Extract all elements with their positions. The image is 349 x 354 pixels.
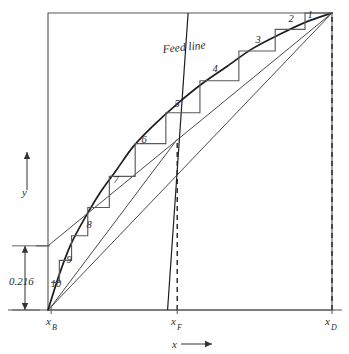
stage-number-10: 10 xyxy=(51,278,62,289)
stage-number-3: 3 xyxy=(254,34,260,45)
stage-number-8: 8 xyxy=(86,219,92,230)
x-axis-label: x xyxy=(171,338,177,350)
x-tick-label-xB-base: x xyxy=(45,315,51,327)
stage-number-5: 5 xyxy=(174,98,179,109)
stage-number-1: 1 xyxy=(307,9,312,20)
x-tick-label-xD-base: x xyxy=(324,315,330,327)
composition-verticals xyxy=(177,13,332,310)
mccabe-thiele-figure: Feed line 0.216 y x x B x F x D 12345678… xyxy=(0,0,349,354)
feed-line-label: Feed line xyxy=(161,39,206,56)
stage-number-9: 9 xyxy=(66,254,72,265)
x-tick-label-xB-sub: B xyxy=(52,323,57,332)
x-tick-label-xD-sub: D xyxy=(330,323,337,332)
intercept-value-label: 0.216 xyxy=(9,275,34,287)
x-tick-label-xF: x F xyxy=(170,315,182,332)
stage-number-4: 4 xyxy=(212,63,218,74)
stage-staircase xyxy=(51,13,332,282)
stage-number-2: 2 xyxy=(288,13,294,24)
diagonal-line xyxy=(48,13,332,310)
x-tick-label-xD: x D xyxy=(324,315,337,332)
y-axis-label: y xyxy=(21,186,27,198)
mccabe-thiele-plot: Feed line 0.216 y x x B x F x D 12345678… xyxy=(0,0,349,354)
stage-number-6: 6 xyxy=(141,134,147,145)
stage-number-7: 7 xyxy=(113,174,119,185)
x-axis-arrow-group xyxy=(181,341,212,347)
x-tick-label-xB: x B xyxy=(45,315,57,332)
y-axis-arrow-group xyxy=(24,152,30,190)
x-tick-label-xF-sub: F xyxy=(176,323,182,332)
stripping-operating-line xyxy=(51,139,177,307)
x-tick-label-xF-base: x xyxy=(170,315,176,327)
